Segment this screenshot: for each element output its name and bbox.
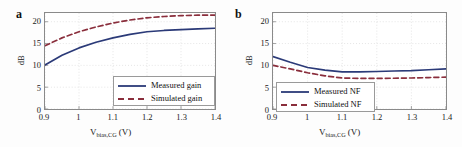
dashed-line-swatch-icon bbox=[280, 100, 310, 110]
panel-b-x-axis-label-main: V bbox=[319, 127, 326, 137]
panel-a-ytick-5: 5 bbox=[19, 84, 41, 93]
legend-label-measured-nf: Measured NF bbox=[314, 87, 361, 96]
solid-line-swatch-icon bbox=[280, 87, 310, 97]
panel-b-ytick-10: 10 bbox=[247, 61, 269, 70]
panel-b-xtick-1.2: 1.2 bbox=[364, 113, 390, 122]
panel-a-x-axis-label-main: V bbox=[90, 127, 97, 137]
legend-item-simulated-nf: Simulated NF bbox=[280, 98, 371, 111]
panel-a-xtick-0.9: 0.9 bbox=[31, 113, 57, 122]
panel-a-xtick-1.2: 1.2 bbox=[134, 113, 160, 122]
panel-b-xtick-1.4: 1.4 bbox=[434, 113, 460, 122]
legend-label-simulated-gain: Simulated gain bbox=[151, 94, 202, 103]
legend-item-measured-nf: Measured NF bbox=[280, 85, 371, 98]
figure-container: a dB Vbias,CG (V) Measured gain Simulate… bbox=[0, 0, 462, 147]
panel-b-x-axis-label: Vbias,CG (V) bbox=[319, 128, 360, 137]
panel-a-xtick-1.3: 1.3 bbox=[169, 113, 195, 122]
panel-b-ytick-5: 5 bbox=[247, 84, 269, 93]
panel-a-xtick-1.4: 1.4 bbox=[203, 113, 229, 122]
panel-a-legend: Measured gain Simulated gain bbox=[113, 76, 215, 106]
panel-b-xtick-1: 1 bbox=[294, 113, 320, 122]
panel-b-x-axis-label-unit: (V) bbox=[346, 127, 361, 137]
dashed-line-swatch-icon bbox=[117, 94, 147, 104]
panel-b-ytick-15: 15 bbox=[247, 39, 269, 48]
panel-a-x-axis-label-unit: (V) bbox=[117, 127, 132, 137]
legend-label-simulated-nf: Simulated NF bbox=[314, 100, 361, 109]
legend-label-measured-gain: Measured gain bbox=[151, 81, 201, 90]
panel-a-xtick-1.1: 1.1 bbox=[100, 113, 126, 122]
panel-b-ytick-20: 20 bbox=[247, 17, 269, 26]
panel-a-ytick-10: 10 bbox=[19, 61, 41, 70]
panel-a: a dB Vbias,CG (V) Measured gain Simulate… bbox=[0, 0, 231, 147]
legend-item-simulated-gain: Simulated gain bbox=[117, 92, 211, 105]
legend-item-measured-gain: Measured gain bbox=[117, 79, 211, 92]
solid-line-swatch-icon bbox=[117, 81, 147, 91]
panel-a-x-axis-label: Vbias,CG (V) bbox=[90, 128, 131, 137]
panel-a-xtick-1: 1 bbox=[65, 113, 91, 122]
panel-b-label: b bbox=[235, 8, 242, 20]
panel-b: b dB Vbias,CG (V) Measured NF Simulated … bbox=[231, 0, 462, 147]
panel-b-x-axis-label-sub: bias,CG bbox=[326, 131, 346, 138]
panel-b-xtick-1.1: 1.1 bbox=[329, 113, 355, 122]
panel-a-x-axis-label-sub: bias,CG bbox=[97, 131, 117, 138]
panel-b-xtick-1.3: 1.3 bbox=[399, 113, 425, 122]
panel-a-ytick-20: 20 bbox=[19, 17, 41, 26]
panel-a-ytick-15: 15 bbox=[19, 39, 41, 48]
panel-b-legend: Measured NF Simulated NF bbox=[276, 82, 375, 112]
panel-b-xtick-0.9: 0.9 bbox=[259, 113, 285, 122]
